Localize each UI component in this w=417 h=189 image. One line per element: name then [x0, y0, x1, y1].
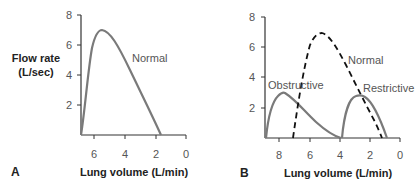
panel-a-ytick-4: 4 [66, 69, 72, 81]
panel-b: 8 6 4 2 8 6 4 2 0 Lung volume (L/min) B … [240, 11, 414, 180]
panel-b-ytick-8: 8 [249, 11, 255, 23]
panel-b-normal-label: Normal [348, 54, 383, 66]
panel-b-obstructive-label: Obstructive [268, 79, 324, 91]
panel-b-letter: B [240, 166, 249, 180]
panel-a-x-ticks [94, 135, 186, 139]
panel-b-ytick-6: 6 [249, 41, 255, 53]
panel-a-ytick-8: 8 [66, 9, 72, 21]
panel-a: 8 6 4 2 6 4 2 0 Flow rate (L/sec) Lung v… [11, 9, 189, 179]
panel-b-xtick-8: 8 [276, 149, 282, 161]
panel-b-xtick-4: 4 [337, 149, 343, 161]
panel-a-y-axis-title-line2: (L/sec) [18, 66, 54, 78]
panel-a-normal-label: Normal [132, 52, 167, 64]
panel-a-x-axis-title: Lung volume (L/min) [80, 166, 188, 178]
panel-a-ytick-6: 6 [66, 39, 72, 51]
panel-b-ytick-4: 4 [249, 71, 255, 83]
panel-a-ytick-2: 2 [66, 99, 72, 111]
panel-a-letter: A [11, 165, 20, 179]
panel-a-xtick-6: 6 [91, 148, 97, 160]
panel-b-restrictive-label: Restrictive [363, 82, 414, 94]
panel-b-xtick-6: 6 [307, 149, 313, 161]
panel-a-y-axis-title-line1: Flow rate [12, 52, 60, 64]
panel-b-x-axis-title: Lung volume (L/min) [284, 167, 392, 179]
panel-a-xtick-0: 0 [183, 148, 189, 160]
panel-b-xtick-2: 2 [367, 149, 373, 161]
panel-b-xtick-0: 0 [397, 149, 403, 161]
panel-a-normal-curve [81, 30, 161, 135]
panel-a-xtick-4: 4 [122, 148, 128, 160]
panel-a-xtick-2: 2 [153, 148, 159, 160]
panel-b-ytick-2: 2 [249, 102, 255, 114]
panel-b-obstructive-curve [266, 93, 341, 138]
flow-volume-figure: 8 6 4 2 6 4 2 0 Flow rate (L/sec) Lung v… [0, 0, 417, 189]
